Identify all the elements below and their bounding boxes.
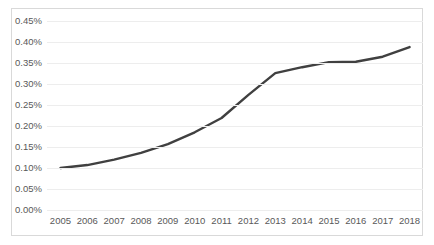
gridline — [47, 168, 423, 169]
y-tick-label: 0.10% — [0, 163, 42, 173]
y-tick-label: 0.15% — [0, 142, 42, 152]
gridline — [47, 21, 423, 22]
y-tick-label: 0.45% — [0, 16, 42, 26]
x-axis: 2005200620072008200920102011201220132014… — [47, 216, 423, 232]
x-tick-label: 2012 — [238, 216, 259, 226]
x-tick-label: 2005 — [50, 216, 71, 226]
x-tick-label: 2009 — [157, 216, 178, 226]
y-tick-label: 0.20% — [0, 121, 42, 131]
x-tick-label: 2007 — [104, 216, 125, 226]
gridline — [47, 63, 423, 64]
y-tick-label: 0.40% — [0, 37, 42, 47]
gridline — [47, 84, 423, 85]
x-tick-label: 2006 — [77, 216, 98, 226]
gridline — [47, 126, 423, 127]
gridline — [47, 210, 423, 211]
gridline — [47, 105, 423, 106]
x-tick-label: 2008 — [130, 216, 151, 226]
gridline — [47, 189, 423, 190]
y-axis: 0.00%0.05%0.10%0.15%0.20%0.25%0.30%0.35%… — [0, 0, 47, 245]
y-tick-label: 0.30% — [0, 79, 42, 89]
x-tick-label: 2011 — [211, 216, 231, 226]
x-tick-label: 2016 — [345, 216, 366, 226]
y-tick-label: 0.05% — [0, 184, 42, 194]
gridline — [47, 147, 423, 148]
y-tick-label: 0.00% — [0, 205, 42, 215]
chart-card: 0.00%0.05%0.10%0.15%0.20%0.25%0.30%0.35%… — [0, 0, 434, 245]
line-series-svg — [47, 21, 423, 210]
x-tick-label: 2017 — [372, 216, 393, 226]
x-tick-label: 2018 — [399, 216, 420, 226]
x-tick-label: 2010 — [184, 216, 205, 226]
x-tick-label: 2014 — [292, 216, 313, 226]
plot-area — [47, 21, 423, 210]
x-tick-label: 2013 — [265, 216, 286, 226]
x-tick-label: 2015 — [318, 216, 339, 226]
gridline — [47, 42, 423, 43]
line-series-path — [60, 47, 409, 168]
y-tick-label: 0.35% — [0, 58, 42, 68]
y-tick-label: 0.25% — [0, 100, 42, 110]
